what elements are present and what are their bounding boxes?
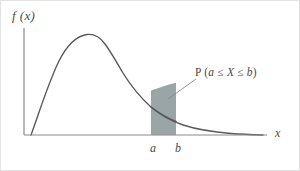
density-curve: [31, 34, 263, 135]
probability-area-fill: [151, 83, 176, 135]
x-tick-label-b: b: [175, 142, 181, 154]
annotation-le-2: ≤: [234, 66, 247, 78]
probability-density-figure: f (x) x a b P (a ≤ X ≤ b): [0, 0, 300, 171]
annotation-prefix: P (: [195, 66, 208, 78]
probability-annotation: P (a ≤ X ≤ b): [195, 67, 257, 79]
x-axis-label: x: [275, 127, 280, 139]
annotation-le-1: ≤: [214, 66, 227, 78]
x-tick-label-a: a: [150, 142, 156, 154]
y-axis-label: f (x): [12, 9, 35, 22]
annotation-suffix: ): [253, 66, 257, 78]
